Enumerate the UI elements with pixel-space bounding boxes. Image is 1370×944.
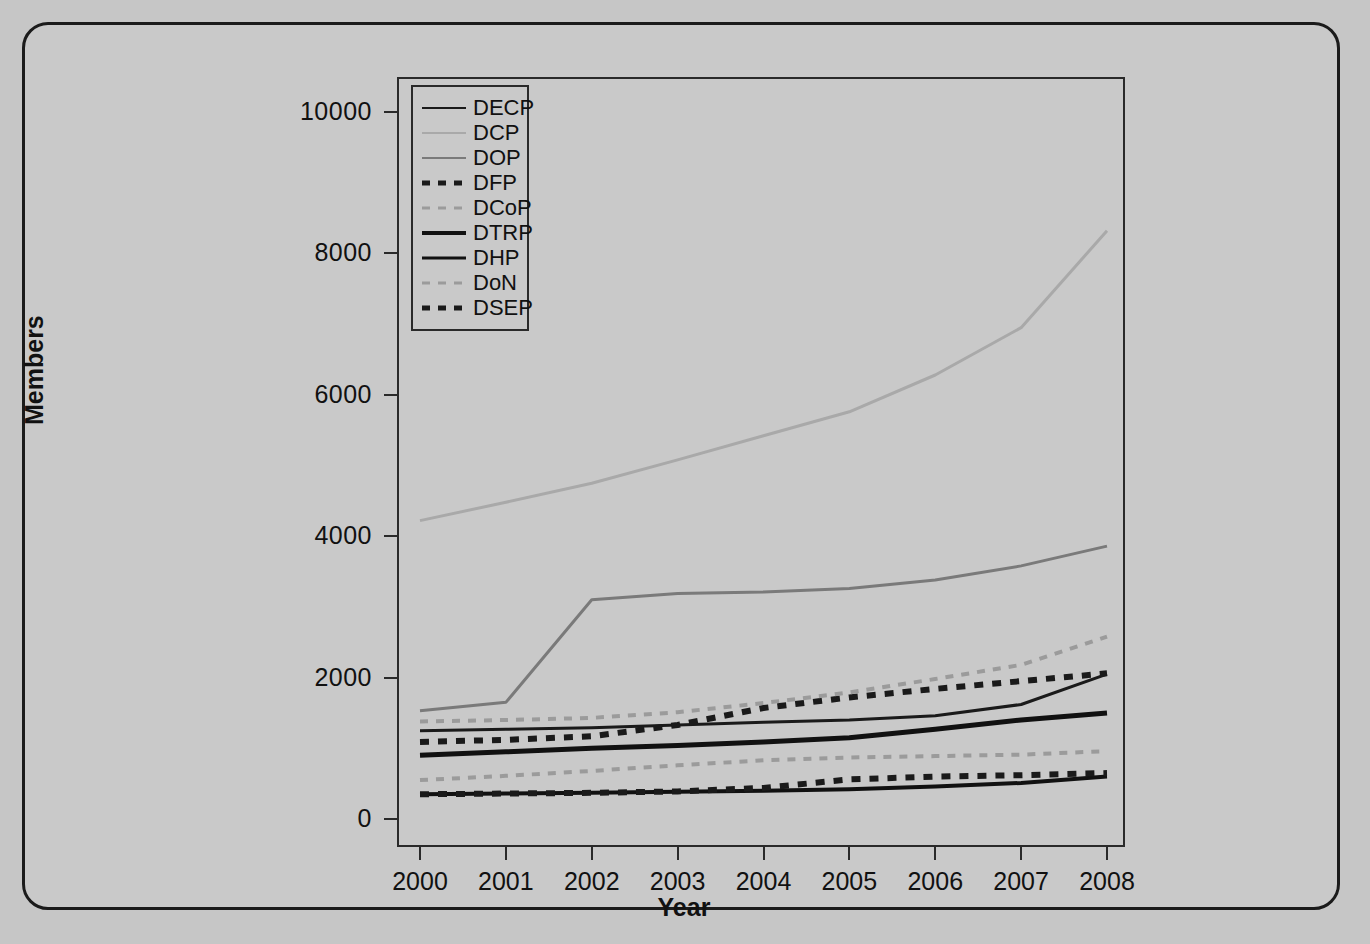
legend-item-label: DCoP — [473, 197, 532, 219]
legend-item-label: DOP — [473, 147, 521, 169]
y-axis-tick-label: 8000 — [222, 238, 372, 267]
y-axis-tick-label: 2000 — [222, 663, 372, 692]
x-axis-tick-mark — [763, 847, 765, 860]
x-axis-tick-mark — [677, 847, 679, 860]
x-axis-tick-mark — [1020, 847, 1022, 860]
y-axis-ticks: 0200040006000800010000 — [25, 25, 397, 905]
legend-item-dtrp[interactable]: DTRP — [422, 220, 518, 245]
y-axis-tick-mark — [384, 111, 397, 113]
chart-legend: DECPDCPDOPDFPDCoPDTRPDHPDoNDSEP — [411, 85, 529, 331]
y-axis-tick-mark — [384, 252, 397, 254]
figure-page: Members 0200040006000800010000 200020012… — [0, 0, 1370, 944]
y-axis-tick-label: 10000 — [222, 97, 372, 126]
legend-item-dsep[interactable]: DSEP — [422, 295, 518, 320]
y-axis-tick-label: 0 — [222, 804, 372, 833]
legend-item-dop[interactable]: DOP — [422, 145, 518, 170]
legend-line-swatch-icon — [422, 226, 466, 240]
legend-item-label: DECP — [473, 97, 534, 119]
legend-item-label: DSEP — [473, 297, 533, 319]
legend-item-label: DCP — [473, 122, 519, 144]
x-axis-tick-mark — [934, 847, 936, 860]
x-axis-title: Year — [25, 893, 1343, 922]
legend-item-label: DoN — [473, 272, 517, 294]
figure-frame: Members 0200040006000800010000 200020012… — [22, 22, 1340, 910]
legend-item-dfp[interactable]: DFP — [422, 170, 518, 195]
legend-item-dhp[interactable]: DHP — [422, 245, 518, 270]
legend-line-swatch-icon — [422, 201, 466, 215]
y-axis-tick-mark — [384, 535, 397, 537]
x-axis-tick-mark — [591, 847, 593, 860]
legend-line-swatch-icon — [422, 176, 466, 190]
y-axis-tick-mark — [384, 818, 397, 820]
legend-line-swatch-icon — [422, 151, 466, 165]
x-axis-tick-label: 2008 — [1057, 867, 1157, 896]
x-axis-tick-mark — [1106, 847, 1108, 860]
series-line-dop — [420, 546, 1107, 711]
legend-item-label: DTRP — [473, 222, 533, 244]
legend-item-dcp[interactable]: DCP — [422, 120, 518, 145]
legend-item-label: DHP — [473, 247, 519, 269]
y-axis-tick-mark — [384, 394, 397, 396]
legend-item-dcop[interactable]: DCoP — [422, 195, 518, 220]
legend-line-swatch-icon — [422, 101, 466, 115]
y-axis-tick-label: 6000 — [222, 380, 372, 409]
y-axis-tick-mark — [384, 677, 397, 679]
legend-item-don[interactable]: DoN — [422, 270, 518, 295]
x-axis-tick-mark — [505, 847, 507, 860]
legend-item-label: DFP — [473, 172, 517, 194]
x-axis-tick-mark — [419, 847, 421, 860]
legend-line-swatch-icon — [422, 251, 466, 265]
legend-line-swatch-icon — [422, 276, 466, 290]
x-axis-tick-mark — [848, 847, 850, 860]
legend-line-swatch-icon — [422, 126, 466, 140]
y-axis-tick-label: 4000 — [222, 521, 372, 550]
legend-item-decp[interactable]: DECP — [422, 95, 518, 120]
legend-line-swatch-icon — [422, 301, 466, 315]
